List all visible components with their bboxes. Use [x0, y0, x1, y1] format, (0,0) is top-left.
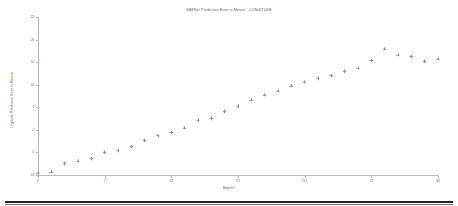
y-tick-label: 0 — [33, 128, 35, 132]
data-point-dot — [171, 132, 173, 134]
data-point-dot — [424, 60, 426, 62]
data-point — [183, 126, 186, 129]
x-tick-label: 25 — [369, 179, 373, 183]
y-tick — [36, 40, 39, 41]
data-point-dot — [77, 160, 79, 162]
data-point-dot — [197, 120, 199, 122]
data-point-dot — [131, 146, 133, 148]
y-tick — [36, 85, 39, 86]
x-tick — [238, 175, 239, 178]
y-axis-line — [38, 17, 39, 175]
y-tick-label: 5 — [33, 105, 35, 109]
data-point-dot — [437, 58, 439, 60]
data-point-dot — [184, 127, 186, 129]
x-tick-label: 20 — [303, 179, 307, 183]
plot-area: -10-50510152025 051015202530 — [38, 17, 438, 175]
data-point-dot — [277, 90, 279, 92]
data-point — [370, 59, 373, 62]
y-tick-label: 15 — [31, 60, 35, 64]
data-point — [36, 171, 39, 174]
data-point — [330, 74, 333, 77]
x-tick — [38, 175, 39, 178]
data-point-dot — [397, 54, 399, 56]
y-tick-label: -10 — [30, 173, 35, 177]
data-point — [356, 66, 359, 69]
data-point — [383, 47, 386, 50]
data-point-dot — [304, 81, 306, 83]
y-tick — [36, 130, 39, 131]
data-point — [76, 159, 79, 162]
data-point — [143, 139, 146, 142]
y-tick — [36, 152, 39, 153]
y-tick-label: -5 — [31, 150, 34, 154]
data-point — [50, 170, 53, 173]
data-point-dot — [237, 106, 239, 108]
data-point-dot — [117, 150, 119, 152]
data-point — [196, 119, 199, 122]
x-tick — [371, 175, 372, 178]
data-point-dot — [64, 162, 66, 164]
y-tick-label: 20 — [31, 38, 35, 42]
y-axis-label: Logitude Prediction Error in Meters — [10, 55, 14, 145]
data-point — [156, 134, 159, 137]
data-point-dot — [411, 56, 413, 58]
data-point-dot — [384, 48, 386, 50]
data-point — [250, 98, 253, 101]
data-point-dot — [104, 152, 106, 154]
data-point — [116, 149, 119, 152]
x-axis-label: Epoch# — [0, 186, 458, 190]
data-point — [276, 89, 279, 92]
data-point — [210, 116, 213, 119]
x-tick-label: 30 — [436, 179, 440, 183]
data-point — [396, 53, 399, 56]
data-point — [410, 55, 413, 58]
data-point-dot — [357, 67, 359, 69]
data-point-dot — [317, 78, 319, 80]
x-tick — [305, 175, 306, 178]
data-point-dot — [37, 172, 39, 174]
data-point — [263, 93, 266, 96]
x-tick-label: 0 — [37, 179, 39, 183]
data-point — [130, 145, 133, 148]
x-tick-label: 5 — [104, 179, 106, 183]
data-point — [436, 57, 439, 60]
data-point — [103, 151, 106, 154]
data-point — [290, 84, 293, 87]
data-point — [343, 69, 346, 72]
data-point-dot — [51, 171, 53, 173]
data-point — [316, 77, 319, 80]
data-point — [223, 110, 226, 113]
data-point-dot — [344, 70, 346, 72]
data-point-dot — [144, 139, 146, 141]
data-point-dot — [211, 117, 213, 119]
y-tick — [36, 62, 39, 63]
y-tick — [36, 107, 39, 108]
data-point-dot — [371, 60, 373, 62]
bottom-bar-shadow — [5, 204, 453, 205]
bottom-bar — [5, 201, 453, 204]
x-tick-label: 15 — [236, 179, 240, 183]
data-point — [303, 80, 306, 83]
data-point — [90, 157, 93, 160]
data-point-dot — [331, 75, 333, 77]
data-point-dot — [91, 158, 93, 160]
x-tick — [171, 175, 172, 178]
chart-title: NBFNet Prediction Error in Meters - LONG… — [0, 8, 458, 12]
data-point-dot — [291, 85, 293, 87]
data-point-dot — [251, 99, 253, 101]
x-tick — [105, 175, 106, 178]
x-tick-label: 10 — [169, 179, 173, 183]
data-point-dot — [264, 94, 266, 96]
data-point — [423, 60, 426, 63]
data-point — [63, 162, 66, 165]
y-tick — [36, 17, 39, 18]
data-point — [236, 105, 239, 108]
data-point — [170, 131, 173, 134]
data-point-dot — [157, 135, 159, 137]
data-point-dot — [224, 111, 226, 113]
chart-figure: NBFNet Prediction Error in Meters - LONG… — [0, 0, 458, 206]
y-tick-label: 10 — [31, 83, 35, 87]
y-tick-label: 25 — [31, 15, 35, 19]
x-tick — [438, 175, 439, 178]
